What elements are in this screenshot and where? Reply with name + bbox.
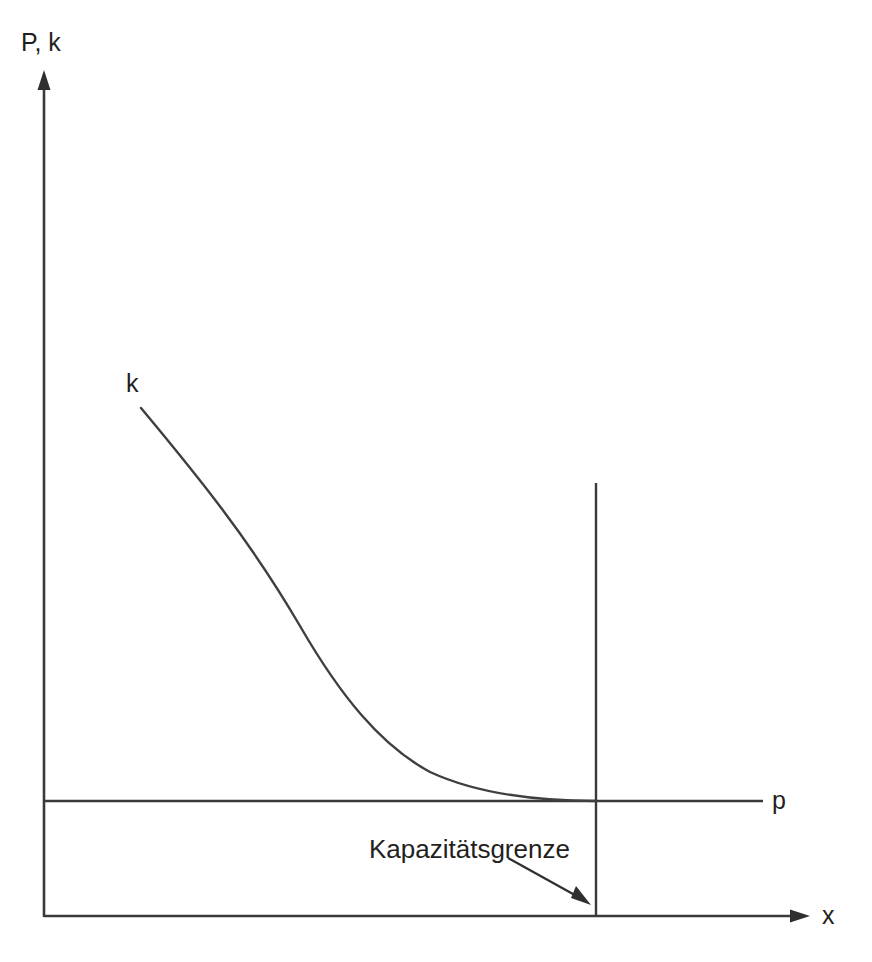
x-axis-label: x bbox=[822, 903, 835, 928]
y-axis-arrowhead-icon bbox=[38, 70, 51, 90]
curve-label-k: k bbox=[126, 371, 139, 396]
chart-figure: P, k k p x Kapazitätsgrenze bbox=[0, 0, 872, 962]
capacity-annotation-text: Kapazitätsgrenze bbox=[369, 836, 570, 862]
x-axis-arrowhead-icon bbox=[790, 910, 810, 923]
annotation-leader-line bbox=[508, 858, 582, 899]
chart-canvas bbox=[0, 0, 872, 962]
x-axis bbox=[44, 910, 810, 923]
cost-curve-k bbox=[141, 408, 596, 801]
y-axis-label: P, k bbox=[21, 30, 61, 55]
annotation-arrowhead-icon bbox=[571, 886, 591, 905]
y-axis bbox=[38, 70, 51, 917]
price-line-label-p: p bbox=[772, 788, 786, 813]
capacity-annotation-arrow bbox=[508, 858, 591, 905]
